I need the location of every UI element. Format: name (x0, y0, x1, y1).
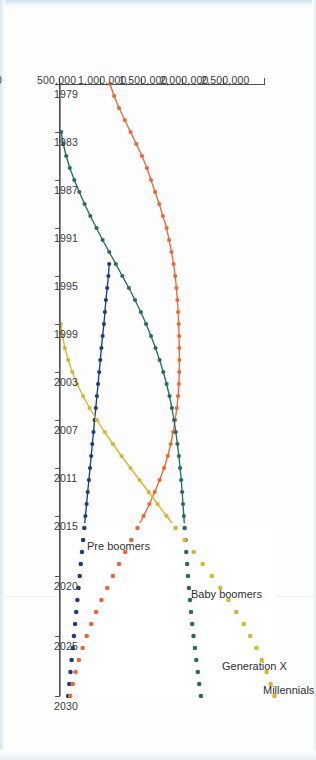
x-tick (55, 420, 60, 421)
x-tick-label: 1979 (54, 88, 78, 100)
series-label-millennials: Millennials (263, 684, 314, 696)
series-label-pre-boomers: Pre boomers (87, 540, 150, 552)
x-tick (55, 576, 60, 577)
y-tick (264, 78, 265, 84)
x-tick-label: 2030 (54, 700, 78, 712)
x-tick-label: 1983 (54, 136, 78, 148)
x-tick (55, 372, 60, 373)
x-tick (55, 276, 60, 277)
x-tick (55, 696, 60, 697)
x-tick (55, 180, 60, 181)
x-tick-label: 2015 (54, 520, 78, 532)
x-tick-label: 1987 (54, 184, 78, 196)
series-lines-layer (25, 14, 275, 714)
x-tick (55, 132, 60, 133)
page-right-edge-shadow (312, 0, 316, 760)
x-tick-label: 2025 (54, 640, 78, 652)
x-tick-label: 2011 (54, 472, 77, 484)
chart-plot-area: 1979198319871991199519992003200720112015… (25, 14, 275, 714)
x-tick (55, 636, 60, 637)
scanned-page: 1979198319871991199519992003200720112015… (0, 0, 316, 760)
x-tick-label: 2020 (54, 580, 78, 592)
x-tick (55, 228, 60, 229)
y-tick-label: 2,500,000 (201, 74, 261, 86)
x-tick (55, 516, 60, 517)
x-tick-label: 2003 (54, 376, 78, 388)
series-label-generation-x: Generation X (222, 660, 287, 672)
x-tick-label: 1999 (54, 328, 78, 340)
x-tick-label: 1991 (54, 232, 78, 244)
series-label-baby-boomers: Baby boomers (191, 588, 262, 600)
x-tick-label: 1995 (54, 280, 78, 292)
x-tick (55, 468, 60, 469)
x-tick-label: 2007 (54, 424, 78, 436)
figure-stage: 1979198319871991199519992003200720112015… (25, 14, 275, 714)
x-tick (55, 324, 60, 325)
page-left-edge-shadow (0, 0, 5, 760)
